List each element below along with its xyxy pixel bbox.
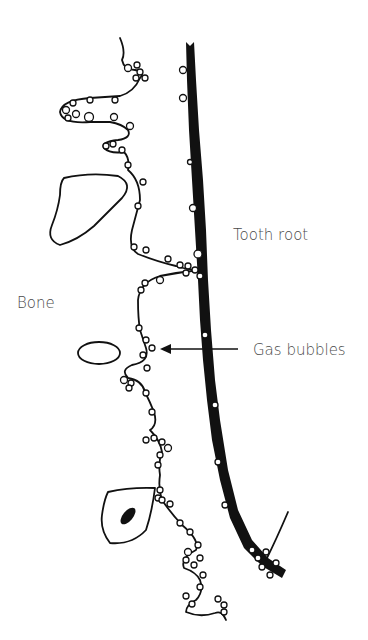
diagram-svg: [0, 0, 368, 640]
arrow-head-icon: [160, 344, 171, 354]
osteocyte-nucleus: [118, 505, 139, 527]
diagram-canvas: Tooth root Bone Gas bubbles: [0, 0, 368, 640]
tooth-root-shape: [186, 42, 286, 578]
bone-cavity-large: [50, 174, 127, 245]
label-gas-bubbles: Gas bubbles: [253, 343, 346, 358]
label-tooth-root: Tooth root: [233, 228, 308, 243]
bone-cavity-oval: [78, 342, 120, 364]
label-bone: Bone: [17, 296, 55, 311]
